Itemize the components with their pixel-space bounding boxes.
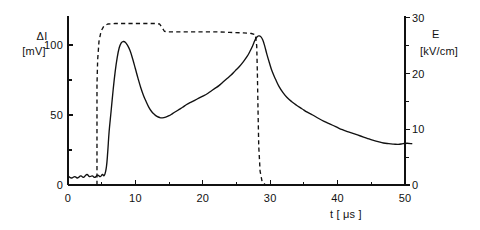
series-delta-i	[68, 36, 412, 178]
x-tick-label-0: 0	[48, 192, 88, 204]
right-axis-ticks	[405, 18, 410, 185]
y-tick-label-left-50: 50	[23, 109, 63, 121]
x-axis-title-label: t [ μs ]	[330, 208, 410, 220]
series-electric-field	[97, 23, 266, 185]
x-axis-ticks	[68, 180, 405, 185]
right-axis-symbol-label: E	[432, 28, 462, 40]
x-tick-label-30: 30	[250, 192, 290, 204]
y-tick-label-right-10: 10	[412, 123, 452, 135]
y-tick-label-right-0: 0	[412, 179, 452, 191]
figure-container: ΔI [mV] E [kV/cm] t [ μs ] 0501000102030…	[0, 0, 480, 230]
y-tick-label-left-0: 0	[23, 179, 63, 191]
y-tick-label-left-100: 100	[23, 39, 63, 51]
x-tick-label-20: 20	[183, 192, 223, 204]
x-tick-label-40: 40	[318, 192, 358, 204]
y-tick-label-right-20: 20	[412, 68, 452, 80]
y-tick-label-right-30: 30	[412, 12, 452, 24]
x-tick-label-50: 50	[385, 192, 425, 204]
left-axis-ticks	[68, 45, 73, 185]
x-tick-label-10: 10	[115, 192, 155, 204]
right-axis-unit-label: [kV/cm]	[420, 45, 480, 57]
